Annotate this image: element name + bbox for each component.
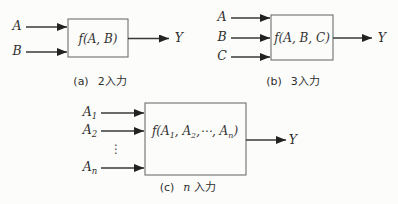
function-box-label-c: f(A1, A2,⋯, An) xyxy=(152,125,238,137)
caption-c-var: n xyxy=(183,181,190,194)
caption-c: (c) n 入力 xyxy=(160,178,217,194)
caption-b-text: 3入力 xyxy=(291,72,320,88)
caption-a-id: (a) xyxy=(73,75,88,88)
input-label-b1: A xyxy=(217,11,226,24)
vertical-ellipsis: ⋮ xyxy=(110,143,122,155)
caption-b: (b) 3入力 xyxy=(266,72,320,88)
caption-a: (a) 2入力 xyxy=(73,72,126,88)
caption-c-text: 入力 xyxy=(194,178,216,194)
caption-a-text: 2入力 xyxy=(98,72,127,88)
input-label-b2: B xyxy=(217,31,226,44)
input-label-c1: A1 xyxy=(83,106,97,119)
output-label-c: Y xyxy=(289,134,297,147)
diagram-graphics xyxy=(0,0,398,204)
function-box-label-b: f(A, B, C) xyxy=(274,32,330,44)
logic-function-block-diagrams: A B f(A, B) Y (a) 2入力 A B C f(A, B, C) Y… xyxy=(0,0,398,204)
output-label-a: Y xyxy=(175,32,183,45)
output-label-b: Y xyxy=(378,32,386,45)
input-label-cn: An xyxy=(83,161,98,174)
input-label-c2: A2 xyxy=(83,124,97,137)
input-label-a1: A xyxy=(12,20,21,33)
caption-c-id: (c) xyxy=(160,181,175,194)
function-box-label-a: f(A, B) xyxy=(79,33,118,45)
input-label-a2: B xyxy=(12,45,21,58)
caption-b-id: (b) xyxy=(266,75,282,88)
input-label-b3: C xyxy=(217,50,227,63)
